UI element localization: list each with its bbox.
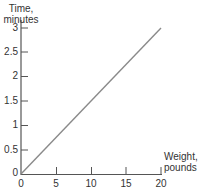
- x-tick-label: 20: [151, 178, 171, 189]
- x-tick-label: 0: [11, 178, 31, 189]
- y-axis-label: Time, minutes: [2, 3, 40, 25]
- y-axis-label-line1: Time,: [2, 3, 40, 14]
- y-tick-label: 2.5: [4, 46, 18, 57]
- data-line: [21, 28, 161, 174]
- y-tick-label: 2: [12, 70, 18, 81]
- chart: Time, minutes Weight, pounds 3 2.5 2 1.5…: [0, 0, 204, 194]
- y-tick-label: 3: [12, 22, 18, 33]
- x-tick-label: 10: [81, 178, 101, 189]
- x-tick-label: 15: [116, 178, 136, 189]
- y-tick-label: 0.5: [4, 144, 18, 155]
- x-tick-label: 5: [46, 178, 66, 189]
- y-tick-label: 0: [12, 167, 18, 178]
- y-tick-label: 1.5: [4, 95, 18, 106]
- x-ticks: [57, 167, 162, 174]
- x-axis-label-line2: pounds: [164, 162, 198, 173]
- y-ticks: [21, 28, 28, 150]
- y-tick-label: 1: [12, 119, 18, 130]
- y-axis-label-line2: minutes: [2, 14, 40, 25]
- x-axis-label-line1: Weight,: [164, 151, 198, 162]
- x-axis-label: Weight, pounds: [164, 151, 198, 173]
